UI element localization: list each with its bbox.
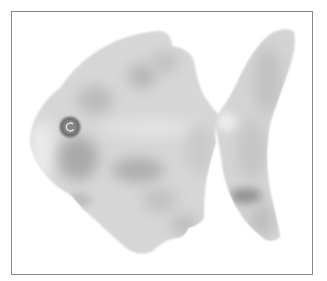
tail-fin [210, 20, 310, 250]
fish-eye [60, 117, 81, 138]
fish-body [20, 20, 230, 260]
illustration-canvas [0, 0, 327, 281]
fish-illustration [0, 0, 327, 281]
